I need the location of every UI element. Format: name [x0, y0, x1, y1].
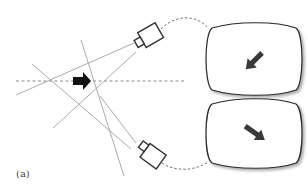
sight-line-4: [32, 64, 131, 149]
sight-line-5: [100, 96, 136, 143]
sight-line-1: [16, 43, 134, 95]
figure-label: (a): [16, 168, 30, 179]
sight-line-3: [53, 52, 136, 128]
cable-bottom-dashed: [162, 162, 208, 169]
sight-line-2: [81, 40, 124, 176]
camera-bottom-icon: [134, 139, 166, 169]
camera-top-icon: [132, 23, 164, 51]
stereo-camera-diagram: [0, 0, 308, 192]
object-arrow-icon: [73, 72, 91, 90]
cable-top-dashed: [161, 18, 207, 29]
sight-lines: [16, 40, 136, 176]
